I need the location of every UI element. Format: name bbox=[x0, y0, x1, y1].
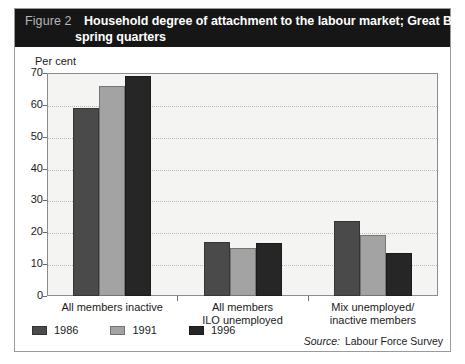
y-axis-tick-label: 40 bbox=[17, 162, 43, 175]
y-axis-tick-mark bbox=[43, 232, 47, 233]
bar-1996-3 bbox=[386, 253, 412, 296]
y-axis-tick-mark bbox=[43, 137, 47, 138]
bar-1991-2 bbox=[230, 248, 256, 296]
source-value: Labour Force Survey bbox=[345, 335, 443, 347]
bar-1996-1 bbox=[125, 76, 151, 296]
bar-1991-3 bbox=[360, 235, 386, 296]
bar-1986-3 bbox=[334, 221, 360, 296]
y-axis-tick-mark bbox=[43, 73, 47, 74]
bar-1996-2 bbox=[256, 243, 282, 296]
bar-1991-1 bbox=[99, 86, 125, 296]
y-axis-tick-label: 10 bbox=[17, 257, 43, 270]
y-axis-tick-mark bbox=[43, 296, 47, 297]
chart: 010203040506070 All members inactiveAll … bbox=[15, 9, 452, 353]
bars-layer bbox=[47, 73, 438, 296]
legend-label: 1991 bbox=[132, 324, 156, 336]
y-axis-tick-mark bbox=[43, 200, 47, 201]
legend-swatch-icon bbox=[32, 326, 47, 335]
y-axis-tick-mark bbox=[43, 264, 47, 265]
legend-item-1996[interactable]: 1996 bbox=[189, 324, 235, 336]
y-axis-tick-label: 30 bbox=[17, 193, 43, 206]
legend-swatch-icon bbox=[189, 326, 204, 335]
y-axis-tick-mark bbox=[43, 105, 47, 106]
legend-label: 1996 bbox=[211, 324, 235, 336]
y-axis-tick-label: 70 bbox=[17, 66, 43, 79]
y-axis-tick-label: 60 bbox=[17, 98, 43, 111]
bar-1986-1 bbox=[73, 108, 99, 296]
source-label: Source: bbox=[304, 335, 340, 347]
category-label-line: All members inactive bbox=[47, 301, 177, 314]
legend-item-1991[interactable]: 1991 bbox=[110, 324, 156, 336]
y-axis-tick-label: 0 bbox=[17, 289, 43, 302]
source-note: Source:Labour Force Survey bbox=[304, 335, 443, 347]
legend-item-1986[interactable]: 1986 bbox=[32, 324, 78, 336]
y-axis-tick-label: 20 bbox=[17, 225, 43, 238]
category-label-line: All members bbox=[177, 301, 307, 314]
y-axis: 010203040506070 bbox=[15, 73, 43, 296]
figure-container: Figure 2 Household degree of attachment … bbox=[14, 8, 451, 352]
y-axis-tick-label: 50 bbox=[17, 130, 43, 143]
category-label-1: All members inactive bbox=[47, 301, 177, 314]
y-axis-tick-mark bbox=[43, 169, 47, 170]
category-label-line: Mix unemployed/ bbox=[308, 301, 438, 314]
bar-1986-2 bbox=[204, 242, 230, 296]
legend-label: 1986 bbox=[54, 324, 78, 336]
legend-swatch-icon bbox=[110, 326, 125, 335]
